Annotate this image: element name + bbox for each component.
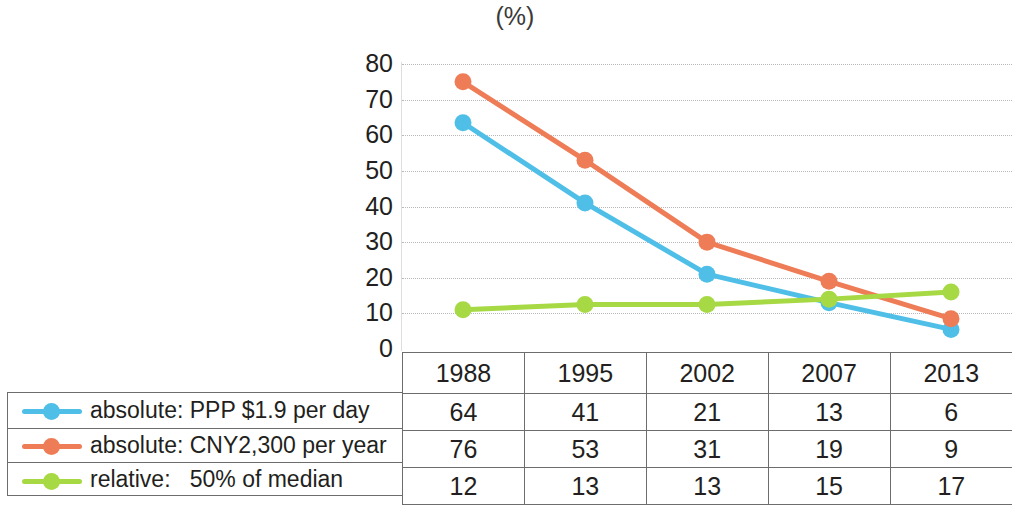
- legend-label: absolute: PPP $1.9 per day: [90, 399, 370, 422]
- y-tick-label: 20: [347, 265, 393, 290]
- table-cell: 17: [890, 468, 1012, 505]
- table-header-cell: 2002: [646, 353, 768, 394]
- series-data-point: [821, 273, 838, 290]
- series-data-point: [943, 284, 960, 301]
- table-cell: 19: [768, 431, 890, 468]
- table-cell: 13: [524, 468, 646, 505]
- y-axis-tick-labels: 80706050403020100: [345, 0, 393, 400]
- table-cell: 12: [403, 468, 525, 505]
- series-data-point: [577, 194, 594, 211]
- table-cell: 21: [646, 394, 768, 431]
- table-cell: 13: [646, 468, 768, 505]
- y-tick-label: 30: [347, 229, 393, 254]
- table-cell: 9: [890, 431, 1012, 468]
- series-data-point: [577, 296, 594, 313]
- series-data-point: [699, 234, 716, 251]
- chart-legend: absolute: PPP $1.9 per dayabsolute: CNY2…: [7, 392, 402, 496]
- table-header-row: 19881995200220072013: [403, 353, 1013, 394]
- series-line: [463, 82, 951, 319]
- table-header-cell: 2013: [890, 353, 1012, 394]
- series-data-point: [699, 266, 716, 283]
- chart-series-svg: [402, 64, 1012, 349]
- table-cell: 53: [524, 431, 646, 468]
- table-cell: 31: [646, 431, 768, 468]
- series-data-point: [455, 73, 472, 90]
- table-row: 644121136: [403, 394, 1013, 431]
- series-data-point: [455, 301, 472, 318]
- legend-row: absolute: PPP $1.9 per day: [8, 393, 402, 428]
- y-tick-label: 60: [347, 122, 393, 147]
- y-tick-label: 10: [347, 300, 393, 325]
- table-cell: 64: [403, 394, 525, 431]
- table-cell: 6: [890, 394, 1012, 431]
- legend-marker-icon: [22, 396, 82, 424]
- y-tick-label: 0: [347, 336, 393, 361]
- series-data-point: [455, 114, 472, 131]
- y-tick-label: 50: [347, 158, 393, 183]
- legend-row: absolute: CNY2,300 per year: [8, 428, 402, 463]
- legend-marker-icon: [22, 466, 82, 494]
- table-header-cell: 1988: [403, 353, 525, 394]
- y-tick-label: 40: [347, 194, 393, 219]
- table-header-cell: 2007: [768, 353, 890, 394]
- legend-label: relative: 50% of median: [90, 468, 343, 491]
- series-data-point: [577, 152, 594, 169]
- series-data-point: [821, 291, 838, 308]
- series-data-point: [699, 296, 716, 313]
- y-tick-label: 70: [347, 87, 393, 112]
- series-data-point: [943, 310, 960, 327]
- chart-unit-subtitle: (%): [445, 2, 585, 31]
- table-row: 1213131517: [403, 468, 1013, 505]
- table-cell: 76: [403, 431, 525, 468]
- table-row: 765331199: [403, 431, 1013, 468]
- legend-label: absolute: CNY2,300 per year: [90, 434, 387, 457]
- table-cell: 41: [524, 394, 646, 431]
- y-tick-label: 80: [347, 51, 393, 76]
- legend-row: relative: 50% of median: [8, 462, 402, 497]
- legend-marker-icon: [22, 431, 82, 459]
- chart-plot-area: [402, 64, 1012, 349]
- table-header-cell: 1995: [524, 353, 646, 394]
- table-cell: 13: [768, 394, 890, 431]
- chart-data-table: 1988199520022007201364412113676533119912…: [402, 352, 1012, 505]
- table-cell: 15: [768, 468, 890, 505]
